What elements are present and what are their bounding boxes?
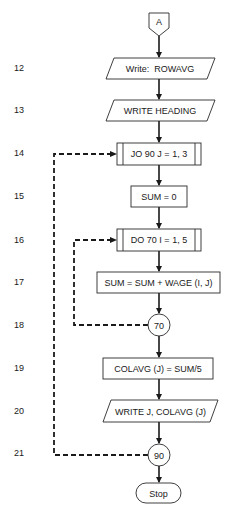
step-label: WRITE J, COLAVG (J): [115, 407, 206, 417]
row-number: 12: [14, 63, 24, 73]
row-number: 19: [14, 363, 24, 373]
step-label: SUM = 0: [141, 192, 176, 202]
connector-label: 90: [154, 451, 164, 461]
step-label: COLAVG (J) = SUM/5: [114, 364, 202, 374]
step-label: JO 90 J = 1, 3: [131, 149, 187, 159]
row-number: 15: [14, 191, 24, 201]
io-write-heading: WRITE HEADING: [106, 100, 215, 121]
row-number: 16: [14, 235, 24, 245]
connector-90: 90: [148, 444, 170, 466]
row-number: 13: [14, 105, 24, 115]
step-label: DO 70 I = 1, 5: [131, 235, 187, 245]
connector-70: 70: [148, 314, 170, 336]
row-number: 20: [14, 406, 24, 416]
connector-label: 70: [154, 321, 164, 331]
loop-do-70: DO 70 I = 1, 5: [117, 229, 201, 251]
arrow-icon: [110, 237, 117, 243]
process-sum-wage: SUM = SUM + WAGE (I, J): [97, 272, 220, 293]
loop-do-90: JO 90 J = 1, 3: [117, 143, 201, 165]
io-write-rowavg: Write: ROWAVG: [106, 58, 215, 79]
row-number: 14: [14, 148, 24, 158]
io-write-colavg: WRITE J, COLAVG (J): [103, 400, 218, 422]
terminal-label: Stop: [149, 489, 168, 499]
row-number: 18: [14, 320, 24, 330]
step-label: SUM = SUM + WAGE (I, J): [104, 278, 212, 288]
step-label: WRITE HEADING: [124, 106, 197, 116]
arrow-icon: [110, 151, 117, 157]
row-number: 21: [14, 448, 24, 458]
flowchart: 12 13 14 15 16 17 18 19 20 21 A: [0, 0, 232, 519]
process-colavg: COLAVG (J) = SUM/5: [103, 358, 213, 379]
offpage-connector-a: A: [149, 13, 169, 36]
row-numbers: 12 13 14 15 16 17 18 19 20 21: [14, 63, 24, 458]
terminal-stop: Stop: [136, 483, 181, 503]
row-number: 17: [14, 277, 24, 287]
connector-label: A: [156, 17, 162, 27]
step-label: Write: ROWAVG: [126, 64, 194, 74]
process-sum-zero: SUM = 0: [131, 186, 187, 207]
